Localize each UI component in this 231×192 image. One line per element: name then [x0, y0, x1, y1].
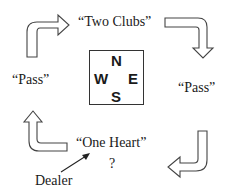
arrow-south-to-west-icon — [24, 111, 67, 151]
bid-west: “Pass” — [12, 73, 49, 87]
dealer-pointer-head-icon — [82, 153, 90, 160]
compass-east: E — [128, 71, 138, 86]
compass-south: S — [111, 89, 121, 104]
dealer-pointer-icon — [61, 156, 86, 172]
bid-east: “Pass” — [178, 81, 215, 95]
dealer-label: Dealer — [35, 174, 72, 188]
bid-north: “Two Clubs” — [78, 15, 151, 29]
bid-south: “One Heart” — [76, 136, 146, 150]
arrow-east-to-south-icon — [168, 131, 207, 177]
arrow-west-to-north-icon — [27, 15, 69, 57]
compass-west: W — [94, 71, 108, 86]
arrow-north-to-east-icon — [165, 18, 213, 58]
compass-north: N — [111, 53, 122, 68]
next-bid-question: ? — [109, 157, 115, 171]
